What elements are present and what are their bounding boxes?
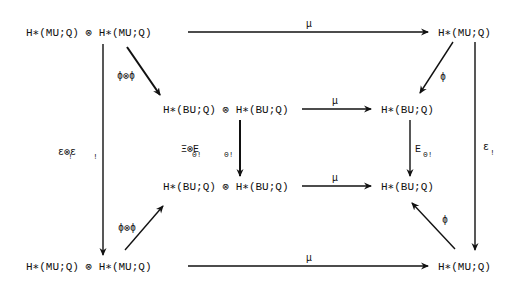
label-phi-lower: ϕ: [442, 215, 448, 226]
label-e-right: E: [415, 144, 421, 155]
node-top-left: H∗(MU;Q) ⊗ H∗(MU;Q): [26, 27, 152, 39]
label-lower-mu: μ: [332, 173, 338, 184]
label-e-sub: 0!: [224, 150, 234, 159]
label-eps-right-sub: !: [490, 148, 495, 157]
label-phi-tensor-phi-upper: ϕ⊗ϕ: [117, 71, 135, 82]
label-top-mu: μ: [306, 19, 312, 30]
commutative-diagram: H∗(MU;Q) ⊗ H∗(MU;Q) H∗(MU;Q) H∗(BU;Q) ⊗ …: [0, 0, 524, 287]
node-bottom-left: H∗(MU;Q) ⊗ H∗(MU;Q): [26, 261, 152, 273]
label-eps-sub-1: !: [68, 152, 73, 161]
node-mid-upper-left: H∗(BU;Q) ⊗ H∗(BU;Q): [163, 104, 289, 116]
label-phi-tensor-phi-lower: ϕ⊗ϕ: [118, 223, 136, 234]
label-xi-sub: 0!: [192, 150, 202, 159]
node-bottom-right: H∗(MU;Q): [438, 261, 491, 273]
label-eps-right: ε: [483, 142, 489, 153]
arrow-phi-lower: [412, 203, 455, 249]
node-mid-upper-right: H∗(BU;Q): [381, 104, 434, 116]
label-eps-sub-2: !: [93, 152, 98, 161]
label-phi-upper: ϕ: [440, 72, 446, 83]
node-top-right: H∗(MU;Q): [438, 27, 491, 39]
label-upper-mu: μ: [332, 96, 338, 107]
arrow-phi-upper: [420, 42, 453, 93]
label-bottom-mu: μ: [306, 253, 312, 264]
node-mid-lower-left: H∗(BU;Q) ⊗ H∗(BU;Q): [163, 181, 289, 193]
node-mid-lower-right: H∗(BU;Q): [381, 181, 434, 193]
label-e-right-sub: 0!: [423, 150, 433, 159]
